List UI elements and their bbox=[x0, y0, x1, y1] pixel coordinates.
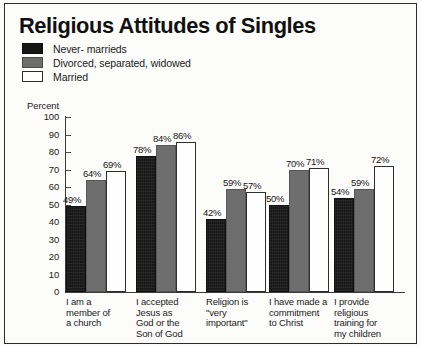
legend-item-married: Married bbox=[22, 70, 191, 83]
bar-value-label: 71% bbox=[306, 156, 324, 167]
bar-divorced-separated-widowed[interactable] bbox=[226, 189, 246, 292]
bar-divorced-separated-widowed[interactable] bbox=[289, 170, 309, 293]
bar-value-label: 59% bbox=[351, 177, 369, 188]
bar-texture bbox=[67, 207, 85, 291]
x-axis-category-label: Religion is "very important" bbox=[206, 297, 248, 329]
y-axis-tick-mark bbox=[66, 292, 71, 293]
bar-never-marrieds[interactable] bbox=[269, 205, 289, 293]
legend-label-never-marrieds: Never- marrieds bbox=[53, 43, 127, 55]
page-title: Religious Attitudes of Singles bbox=[19, 13, 316, 39]
y-axis-tick-label: 70 bbox=[25, 164, 59, 175]
legend-label-divorced-separated-widowed: Divorced, separated, widowed bbox=[53, 57, 191, 69]
bar-group: 54%59%72% bbox=[334, 117, 394, 292]
bar-value-label: 50% bbox=[266, 193, 284, 204]
y-axis-tick-label: 20 bbox=[25, 251, 59, 262]
legend-item-divorced-separated-widowed: Divorced, separated, widowed bbox=[22, 56, 191, 69]
bar-value-label: 49% bbox=[63, 194, 81, 205]
x-axis-category-label: I accepted Jesus as God or the Son of Go… bbox=[136, 297, 183, 339]
bar-texture bbox=[335, 199, 353, 292]
bar-married[interactable] bbox=[309, 168, 329, 292]
bar-group: 49%64%69% bbox=[66, 117, 126, 292]
x-axis-line bbox=[65, 292, 405, 293]
bar-married[interactable] bbox=[374, 166, 394, 292]
y-axis-tick-label: 50 bbox=[25, 199, 59, 210]
legend-swatch-gray bbox=[22, 57, 43, 68]
bar-texture bbox=[270, 206, 288, 292]
bar-value-label: 70% bbox=[286, 158, 304, 169]
bar-married[interactable] bbox=[176, 142, 196, 293]
y-axis-tick-label: 40 bbox=[25, 216, 59, 227]
x-axis-category-label: I have made a commitment to Christ bbox=[269, 297, 327, 329]
bar-value-label: 72% bbox=[371, 154, 389, 165]
bar-value-label: 64% bbox=[83, 168, 101, 179]
chart-page: Religious Attitudes of Singles Never- ma… bbox=[0, 0, 421, 347]
bar-never-marrieds[interactable] bbox=[136, 156, 156, 293]
bar-never-marrieds[interactable] bbox=[206, 219, 226, 293]
x-axis-category-label: I am a member of a church bbox=[66, 297, 110, 329]
bar-married[interactable] bbox=[246, 192, 266, 292]
bar-value-label: 84% bbox=[153, 133, 171, 144]
bar-texture bbox=[207, 220, 225, 292]
y-axis-tick-label: 10 bbox=[25, 269, 59, 280]
chart-legend: Never- marrieds Divorced, separated, wid… bbox=[22, 42, 191, 84]
legend-swatch-white bbox=[22, 71, 43, 82]
bar-value-label: 57% bbox=[243, 180, 261, 191]
bar-never-marrieds[interactable] bbox=[334, 198, 354, 293]
bar-value-label: 59% bbox=[223, 177, 241, 188]
bar-value-label: 54% bbox=[331, 186, 349, 197]
bar-married[interactable] bbox=[106, 171, 126, 292]
bar-group: 42%59%57% bbox=[206, 117, 266, 292]
bar-value-label: 69% bbox=[103, 159, 121, 170]
legend-item-never-marrieds: Never- marrieds bbox=[22, 42, 191, 55]
bar-group: 78%84%86% bbox=[136, 117, 196, 292]
bar-value-label: 78% bbox=[133, 144, 151, 155]
bar-texture bbox=[137, 157, 155, 292]
chart-frame: Religious Attitudes of Singles Never- ma… bbox=[4, 3, 417, 344]
bar-value-label: 42% bbox=[203, 207, 221, 218]
bar-divorced-separated-widowed[interactable] bbox=[354, 189, 374, 292]
y-axis-tick-label: 60 bbox=[25, 181, 59, 192]
legend-swatch-black bbox=[22, 43, 43, 54]
y-axis-tick-label: 80 bbox=[25, 146, 59, 157]
y-axis-tick-label: 90 bbox=[25, 129, 59, 140]
bar-value-label: 86% bbox=[173, 130, 191, 141]
bar-never-marrieds[interactable] bbox=[66, 206, 86, 292]
y-axis-tick-label: 30 bbox=[25, 234, 59, 245]
x-axis-category-label: I provide religious training for my chil… bbox=[334, 297, 381, 339]
bar-divorced-separated-widowed[interactable] bbox=[156, 145, 176, 292]
y-axis-title: Percent bbox=[27, 100, 59, 111]
bar-group: 50%70%71% bbox=[269, 117, 329, 292]
y-axis-tick-label: 100 bbox=[25, 111, 59, 122]
plot-area: 49%64%69%78%84%86%42%59%57%50%70%71%54%5… bbox=[66, 117, 404, 292]
y-axis-tick-label: 0 bbox=[25, 286, 59, 297]
bar-divorced-separated-widowed[interactable] bbox=[86, 180, 106, 292]
legend-label-married: Married bbox=[53, 71, 88, 83]
